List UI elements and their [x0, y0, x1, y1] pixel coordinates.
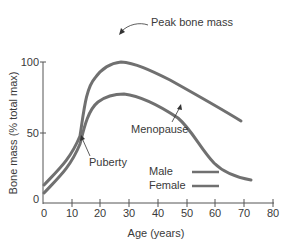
y-tick-100: 100 [21, 56, 39, 68]
x-axis-label: Age (years) [128, 227, 185, 239]
legend-label-male: Male [149, 165, 173, 177]
x-tick-20: 20 [94, 207, 106, 219]
annotation-peak-bone-mass: Peak bone mass [119, 16, 233, 35]
annotation-puberty-label: Puberty [89, 156, 127, 168]
annotation-peak-label: Peak bone mass [151, 16, 233, 28]
y-tick-50: 50 [27, 127, 39, 139]
x-tick-0: 0 [41, 207, 47, 219]
x-tick-70: 70 [238, 207, 250, 219]
annotation-menopause-label: Menopause [131, 123, 189, 135]
bone-mass-chart: 100 50 0 Bone mass (% total max) 0 10 20… [0, 0, 284, 248]
x-tick-10: 10 [66, 207, 78, 219]
x-tick-80: 80 [267, 207, 279, 219]
legend-label-female: Female [149, 179, 186, 191]
x-tick-50: 50 [181, 207, 193, 219]
x-tick-60: 60 [209, 207, 221, 219]
x-tick-40: 40 [152, 207, 164, 219]
y-axis-label: Bone mass (% total max) [7, 72, 19, 195]
x-tick-30: 30 [123, 207, 135, 219]
annotation-puberty: Puberty [80, 135, 127, 168]
legend: Male Female [149, 165, 219, 191]
y-tick-0: 0 [33, 193, 39, 205]
x-axis: 0 10 20 30 40 50 60 70 80 Age (years) [41, 199, 279, 239]
y-axis: 100 50 0 Bone mass (% total max) [7, 56, 46, 205]
